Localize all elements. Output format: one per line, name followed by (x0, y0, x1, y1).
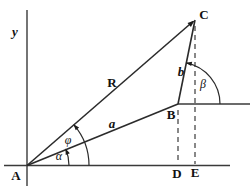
point-d-label: D (172, 166, 181, 181)
vector-r-label: R (107, 75, 117, 90)
vector-b-label: b (178, 64, 185, 79)
angle-phi-label: φ (65, 133, 72, 147)
point-a-label: A (11, 168, 21, 183)
vector-diagram-svg: y A B C D E R a b α φ β (0, 0, 251, 189)
y-axis-label: y (10, 24, 18, 39)
angle-alpha-label: α (56, 149, 63, 163)
vector-addition-figure: y A B C D E R a b α φ β (0, 0, 251, 189)
vector-a-line (27, 104, 178, 166)
phi-arc-arrowhead-icon (74, 124, 80, 130)
point-e-label: E (191, 165, 200, 180)
point-c-label: C (199, 7, 208, 22)
vector-r-line (27, 22, 193, 166)
point-b-label: B (167, 107, 176, 122)
vector-a-label: a (109, 116, 116, 131)
angle-beta-label: β (199, 77, 206, 91)
